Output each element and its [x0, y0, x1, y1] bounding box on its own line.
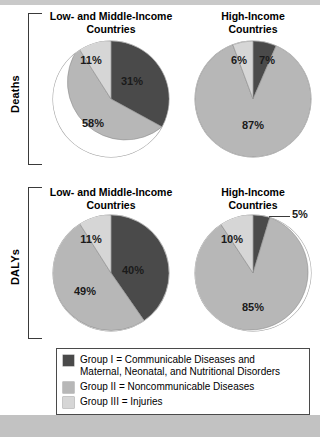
pie-label-group2: 87%	[242, 119, 264, 131]
pie-chart-dalys-lmic: 40% 49% 11%	[53, 215, 169, 331]
panel-title-line1: High-Income	[221, 10, 285, 22]
chart-row-dalys: DALYs Low- and Middle-Income Countries	[0, 181, 320, 353]
pie-label-group1: 7%	[259, 54, 275, 66]
panel-title-line1: Low- and Middle-Income	[50, 186, 173, 198]
pie-label-group1: 40%	[122, 264, 144, 276]
pie-svg-dalys-hic	[195, 215, 311, 331]
bottom-band	[0, 415, 320, 437]
pie-wrap-dalys-hic: 85% 10%	[195, 215, 311, 331]
pie-label-group3: 10%	[221, 233, 243, 245]
pie-svg-deaths-lmic	[53, 41, 169, 157]
legend-label-group2: Group II = Noncommunicable Diseases	[80, 381, 254, 393]
panel-deaths-lmic: Low- and Middle-Income Countries 31% 58%	[42, 5, 180, 183]
pie-label-group2: 85%	[242, 301, 264, 313]
legend-label-group1: Group I = Communicable Diseases and Mate…	[80, 354, 280, 378]
legend-item-group3[interactable]: Group III = Injuries	[63, 396, 303, 408]
legend-swatch-group1	[63, 355, 74, 366]
panel-dalys-lmic: Low- and Middle-Income Countries 40% 49%	[42, 181, 180, 353]
row-bracket-dalys	[28, 187, 42, 339]
legend-item-group2[interactable]: Group II = Noncommunicable Diseases	[63, 381, 303, 393]
row-bracket-deaths	[28, 13, 42, 165]
legend-swatch-group2	[63, 382, 74, 393]
panel-title-line2: Countries	[42, 23, 180, 36]
pie-label-group3: 11%	[80, 233, 101, 245]
panel-title-line2: Countries	[184, 23, 320, 36]
panel-title-line2: Countries	[42, 199, 180, 212]
pie-label-group2: 58%	[82, 117, 104, 129]
pie-label-group2: 49%	[74, 285, 96, 297]
pie-svg-dalys-lmic	[53, 215, 169, 331]
panel-dalys-hic: High-Income Countries 5% 85%	[184, 181, 320, 353]
pie-wrap-deaths-hic: 7% 87% 6%	[195, 41, 311, 157]
legend-item-group1[interactable]: Group I = Communicable Diseases and Mate…	[63, 354, 303, 378]
pie-chart-deaths-lmic: 31% 58% 11%	[53, 41, 169, 157]
chart-legend: Group I = Communicable Diseases and Mate…	[56, 348, 310, 415]
pie-svg-deaths-hic	[195, 41, 311, 157]
panel-title-line1: High-Income	[221, 186, 285, 198]
panel-title-deaths-lmic: Low- and Middle-Income Countries	[42, 10, 180, 35]
legend-label-group3: Group III = Injuries	[80, 396, 163, 408]
chart-row-deaths: Deaths Low- and Middle-Income Countries	[0, 5, 320, 183]
row-axis-label-dalys: DALYs	[2, 181, 28, 353]
pie-chart-dalys-hic: 85% 10%	[195, 215, 311, 331]
pie-chart-deaths-hic: 7% 87% 6%	[195, 41, 311, 157]
pie-label-group3: 6%	[231, 54, 247, 66]
legend-swatch-group3	[63, 397, 74, 408]
row-axis-label-dalys-text: DALYs	[9, 249, 21, 285]
panel-deaths-hic: High-Income Countries 7% 87% 6%	[184, 5, 320, 183]
pie-label-group1: 31%	[121, 75, 143, 87]
legend-label-group1-line2: Maternal, Neonatal, and Nutritional Diso…	[80, 366, 280, 377]
pie-wrap-deaths-lmic: 31% 58% 11%	[53, 41, 169, 157]
legend-label-group1-line1: Group I = Communicable Diseases and	[80, 354, 255, 365]
row-axis-label-deaths: Deaths	[2, 5, 28, 183]
pie-wrap-dalys-lmic: 40% 49% 11%	[53, 215, 169, 331]
row-axis-label-deaths-text: Deaths	[9, 75, 21, 113]
panel-title-dalys-lmic: Low- and Middle-Income Countries	[42, 186, 180, 211]
figure-canvas: Deaths Low- and Middle-Income Countries	[0, 5, 320, 415]
pie-label-group3: 11%	[80, 54, 101, 66]
panel-title-line1: Low- and Middle-Income	[50, 10, 173, 22]
panel-title-deaths-hic: High-Income Countries	[184, 10, 320, 35]
